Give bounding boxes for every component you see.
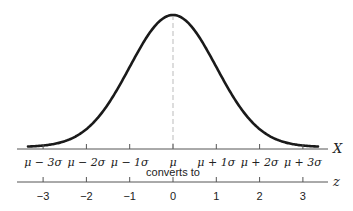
z-tick-label: −1 <box>123 190 136 202</box>
z-tick-label: −3 <box>37 190 50 202</box>
x-tick-label: μ + 3σ <box>284 156 322 169</box>
converts-to-label: converts to <box>146 166 200 178</box>
z-tick-label: 0 <box>170 190 176 202</box>
normal-distribution-diagram: X μ − 3σμ − 2σμ − 1σμμ + 1σμ + 2σμ + 3σ … <box>0 0 353 211</box>
z-axis-name: z <box>332 174 340 189</box>
z-tick-label: 2 <box>257 190 263 202</box>
z-tick-label: 3 <box>300 190 306 202</box>
x-tick-label: μ + 1σ <box>197 156 235 169</box>
x-tick-label: μ + 2σ <box>241 156 279 169</box>
x-tick-label: μ − 1σ <box>111 156 149 169</box>
x-tick-label: μ − 3σ <box>24 156 62 169</box>
z-axis: z −3−2−10123 <box>17 174 340 202</box>
x-tick-label: μ − 2σ <box>67 156 105 169</box>
x-axis-name: X <box>332 141 343 156</box>
z-tick-label: 1 <box>213 190 219 202</box>
z-tick-label: −2 <box>80 190 93 202</box>
